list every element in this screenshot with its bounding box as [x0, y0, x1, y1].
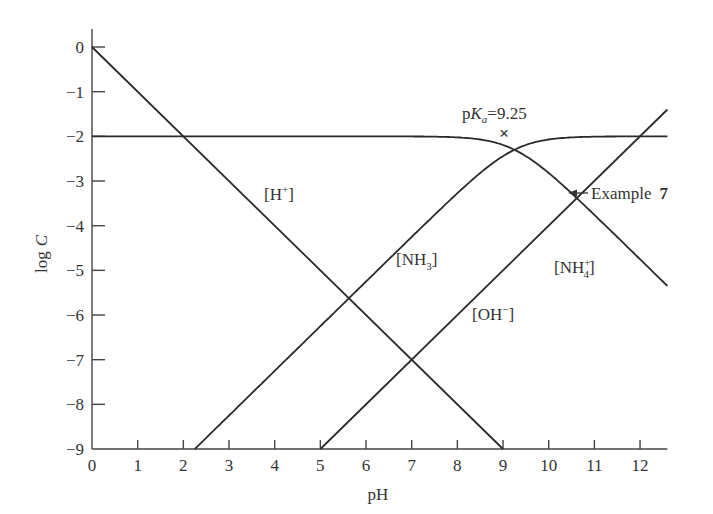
- y-tick-label: −7: [66, 351, 85, 370]
- x-axis-title: pH: [368, 485, 389, 504]
- y-tick-label: −6: [66, 306, 84, 325]
- curve-oh-minus: [320, 110, 667, 450]
- axes: 01234567891011120−1−2−3−4−5−6−7−8−9: [66, 29, 668, 475]
- y-tick-label: −9: [66, 440, 84, 459]
- y-tick-label: −3: [66, 172, 84, 191]
- x-tick-label: 10: [540, 456, 557, 475]
- x-tick-label: 12: [632, 456, 649, 475]
- x-tick-label: 11: [586, 456, 602, 475]
- x-tick-label: 5: [316, 456, 325, 475]
- label-oh-minus: [OH−]: [472, 303, 514, 324]
- x-tick-label: 1: [133, 456, 142, 475]
- svg-text:Example7: Example7: [591, 184, 668, 203]
- x-tick-label: 7: [407, 456, 416, 475]
- x-tick-label: 2: [179, 456, 188, 475]
- x-tick-label: 0: [88, 456, 97, 475]
- x-tick-label: 8: [453, 456, 462, 475]
- y-tick-label: −1: [66, 83, 84, 102]
- pka-label: pKa=9.25: [462, 104, 527, 125]
- label-nh3: [NH3]: [396, 250, 437, 272]
- x-tick-label: 9: [499, 456, 508, 475]
- example-7-annotation: Example7: [568, 184, 668, 203]
- svg-text:logC: logC: [32, 234, 51, 273]
- x-tick-label: 3: [225, 456, 234, 475]
- y-tick-label: −2: [66, 127, 84, 146]
- x-tick-label: 6: [362, 456, 371, 475]
- label-nh4-plus: [NH+4]: [554, 256, 595, 280]
- y-tick-label: −4: [66, 217, 85, 236]
- curve-h-plus: [92, 47, 503, 449]
- curves: [92, 47, 667, 449]
- y-tick-label: −5: [66, 261, 84, 280]
- y-tick-label: −8: [66, 395, 84, 414]
- x-tick-label: 4: [270, 456, 279, 475]
- pka-marker: ×: [499, 124, 509, 143]
- y-tick-label: 0: [76, 38, 85, 57]
- label-h-plus: [H+]: [264, 183, 294, 204]
- y-axis-title: logC: [32, 234, 51, 273]
- log-concentration-chart: 01234567891011120−1−2−3−4−5−6−7−8−9 pH l…: [0, 0, 713, 514]
